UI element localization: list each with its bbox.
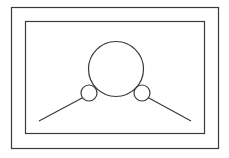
small-circle-left [81, 85, 97, 101]
small-circle-right [134, 85, 150, 101]
line-right [148, 98, 191, 122]
inner-frame [26, 22, 205, 134]
diagram-canvas [0, 0, 229, 158]
line-left [39, 98, 83, 122]
outer-frame [12, 8, 219, 149]
